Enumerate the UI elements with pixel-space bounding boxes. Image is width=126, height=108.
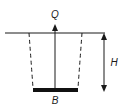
load-arrow-head-icon xyxy=(52,24,58,31)
footing-plate xyxy=(33,88,78,92)
load-label: Q xyxy=(51,9,59,20)
excavation-boundary-right xyxy=(78,33,82,88)
depth-arrow-top-head-icon xyxy=(101,33,107,40)
width-label: B xyxy=(52,95,59,106)
depth-label: H xyxy=(110,57,118,68)
depth-arrow-bottom-head-icon xyxy=(101,85,107,92)
footing-diagram: Q B H xyxy=(0,0,126,108)
excavation-boundary-left xyxy=(29,33,33,88)
